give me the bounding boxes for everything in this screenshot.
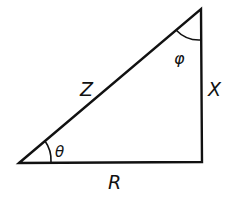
theta-angle-arc: [45, 141, 51, 162]
hypotenuse-label: Z: [79, 78, 94, 100]
right-triangle-diagram: Z X R θ φ: [0, 0, 227, 202]
horizontal-side-label: R: [108, 171, 121, 193]
phi-label: φ: [174, 49, 185, 68]
vertical-side-label: X: [207, 78, 222, 100]
triangle-outline: [19, 9, 202, 163]
theta-label: θ: [55, 143, 64, 161]
phi-angle-arc: [176, 30, 201, 40]
